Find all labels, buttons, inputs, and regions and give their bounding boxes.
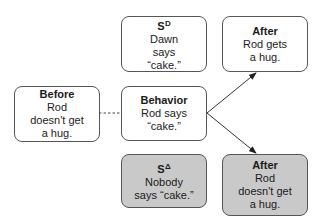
arrow-behavior-to-after-top [207, 73, 256, 113]
before-body: Rod doesn't get a hug. [30, 101, 83, 140]
behavior-body: Rod says “cake.” [141, 107, 187, 133]
before-box: Before Rod doesn't get a hug. [14, 86, 100, 142]
sd-box: SD Dawn says “cake.” [121, 16, 207, 72]
sdelta-superscript: Δ [165, 162, 171, 171]
behavior-box: Behavior Rod says “cake.” [121, 86, 207, 141]
sdelta-body: Nobody says “cake.” [134, 176, 193, 202]
after-top-box: After Rod gets a hug. [222, 16, 308, 72]
sdelta-title: SΔ [157, 160, 171, 176]
arrow-behavior-to-after-bottom [207, 113, 256, 153]
sd-title: SD [157, 17, 171, 33]
after-bottom-title: After [252, 159, 278, 172]
after-bottom-body: Rod doesn't get a hug. [238, 172, 291, 211]
sd-superscript: D [165, 19, 171, 28]
sd-body: Dawn says “cake.” [147, 33, 181, 72]
after-top-body: Rod gets a hug. [243, 38, 287, 64]
after-bottom-box: After Rod doesn't get a hug. [222, 154, 308, 216]
after-top-title: After [252, 25, 278, 38]
behavior-title: Behavior [140, 94, 187, 107]
sdelta-box: SΔ Nobody says “cake.” [121, 154, 207, 208]
before-title: Before [40, 88, 75, 101]
